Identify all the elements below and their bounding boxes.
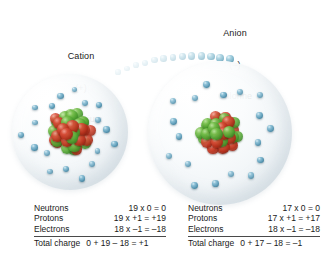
electron-sphere xyxy=(89,161,95,167)
electron-sphere xyxy=(212,180,219,187)
total-value: 0 + 17 – 18 = –1 xyxy=(240,238,302,248)
row-value: 17 x 0 = 0 xyxy=(282,203,320,213)
table-row: Protons 17 x +1 = +17 xyxy=(188,213,320,223)
table-row: Neutrons 17 x 0 = 0 xyxy=(188,203,320,213)
table-total-row: Total charge 0 + 17 – 18 = –1 xyxy=(188,238,320,248)
electron-sphere xyxy=(47,169,53,175)
electron-sphere xyxy=(191,182,198,189)
row-value: 19 x 0 = 0 xyxy=(128,203,166,213)
electron-sphere xyxy=(82,100,88,106)
electron-trail-bead xyxy=(142,60,148,66)
electron-sphere xyxy=(185,161,191,167)
cation-label-line1: Cation xyxy=(27,51,135,62)
electron-sphere xyxy=(267,125,274,132)
electron-sphere xyxy=(257,157,264,164)
anion-label-line1: Anion xyxy=(181,28,289,39)
electron-trail-bead xyxy=(179,53,186,60)
total-key: Total charge xyxy=(34,238,80,248)
atom-potassium xyxy=(12,74,128,190)
row-key: Protons xyxy=(188,213,217,223)
electron-sphere xyxy=(31,144,37,150)
row-value: 18 x –1 = –18 xyxy=(114,224,166,234)
table-divider xyxy=(188,236,320,237)
electron-sphere xyxy=(256,112,263,119)
row-key: Neutrons xyxy=(34,203,69,213)
electron-trail-bead xyxy=(133,62,139,68)
row-value: 17 x +1 = +17 xyxy=(268,213,320,223)
electron-sphere xyxy=(103,126,109,132)
electron-trail-bead xyxy=(198,52,205,59)
electron-sphere xyxy=(111,141,117,147)
total-key: Total charge xyxy=(188,238,234,248)
electron-sphere xyxy=(170,118,177,125)
neutron-sphere xyxy=(210,128,222,140)
electron-sphere xyxy=(257,92,263,98)
electron-trail-bead xyxy=(124,66,129,71)
atom-chlorine xyxy=(148,61,292,205)
table-row: Protons 19 x +1 = +19 xyxy=(34,213,166,223)
electron-sphere xyxy=(63,166,69,172)
row-key: Electrons xyxy=(34,224,69,234)
row-value: 19 x +1 = +19 xyxy=(114,213,166,223)
row-value: 18 x –1 = –18 xyxy=(268,224,320,234)
electron-trail-bead xyxy=(188,52,195,59)
charge-table-potassium: Neutrons 19 x 0 = 0 Protons 19 x +1 = +1… xyxy=(34,203,166,249)
total-value: 0 + 19 – 18 = +1 xyxy=(86,238,148,248)
electron-trail-bead xyxy=(170,54,177,61)
electron-trail-bead xyxy=(207,53,215,61)
electron-sphere xyxy=(57,93,63,99)
row-key: Electrons xyxy=(188,224,223,234)
electron-sphere xyxy=(32,120,38,126)
table-row: Electrons 18 x –1 = –18 xyxy=(34,224,166,234)
table-total-row: Total charge 0 + 19 – 18 = +1 xyxy=(34,238,166,248)
proton-sphere xyxy=(60,128,73,141)
electron-trail-bead xyxy=(151,57,157,63)
electron-trail-bead xyxy=(115,69,120,74)
table-divider xyxy=(34,236,166,237)
charge-table-chlorine: Neutrons 17 x 0 = 0 Protons 17 x +1 = +1… xyxy=(188,203,320,249)
table-row: Electrons 18 x –1 = –18 xyxy=(188,224,320,234)
electron-trail-bead xyxy=(160,55,166,61)
electron-sphere xyxy=(95,117,101,123)
electron-sphere xyxy=(166,153,172,159)
electron-sphere xyxy=(220,92,227,99)
row-key: Protons xyxy=(34,213,63,223)
row-key: Neutrons xyxy=(188,203,223,213)
electron-sphere xyxy=(248,172,254,178)
table-row: Neutrons 19 x 0 = 0 xyxy=(34,203,166,213)
diagram-canvas: Cation (+) Potassium Anion (–) Chlorine … xyxy=(0,0,321,265)
